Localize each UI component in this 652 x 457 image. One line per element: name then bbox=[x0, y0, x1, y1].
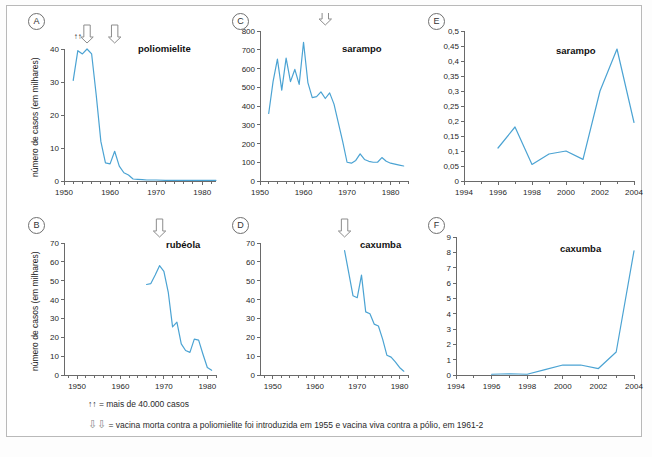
svg-text:1994: 1994 bbox=[447, 382, 465, 391]
svg-text:0,3: 0,3 bbox=[448, 87, 460, 96]
svg-text:1950: 1950 bbox=[264, 382, 282, 391]
panel-d: D0102030405060701950196019701980caxumba bbox=[224, 217, 420, 403]
svg-text:2000: 2000 bbox=[557, 188, 575, 197]
svg-text:20: 20 bbox=[50, 111, 59, 120]
footnote-symbol-up: ↑↑ bbox=[88, 399, 97, 409]
svg-text:2004: 2004 bbox=[625, 382, 643, 391]
plot-f: 0123456789199419961998200020022004 bbox=[420, 217, 648, 403]
svg-text:40: 40 bbox=[50, 296, 59, 305]
svg-text:2002: 2002 bbox=[590, 382, 608, 391]
svg-text:0,4: 0,4 bbox=[448, 57, 460, 66]
svg-text:7: 7 bbox=[447, 264, 452, 273]
panel-title-a: poliomielite bbox=[138, 43, 191, 54]
panel-c: C010020030040050060070080019501960197019… bbox=[224, 13, 420, 209]
panel-label-d: D bbox=[232, 217, 249, 234]
svg-text:1960: 1960 bbox=[306, 382, 324, 391]
svg-text:200: 200 bbox=[242, 140, 256, 149]
svg-text:0,45: 0,45 bbox=[443, 42, 459, 51]
svg-text:0,5: 0,5 bbox=[448, 27, 460, 36]
panel-b: B0102030405060701950196019701980rubéolan… bbox=[20, 217, 226, 403]
svg-text:100: 100 bbox=[242, 158, 256, 167]
svg-text:1970: 1970 bbox=[348, 382, 366, 391]
svg-text:0: 0 bbox=[455, 177, 460, 186]
svg-text:1970: 1970 bbox=[338, 188, 356, 197]
svg-text:1998: 1998 bbox=[518, 382, 536, 391]
panel-title-e: sarampo bbox=[556, 45, 596, 56]
footnote-symbol-down: ⇩⇩ bbox=[88, 418, 106, 430]
plot-a: 0102030401950196019701980↑↑ bbox=[20, 13, 226, 209]
figure-root: A0102030401950196019701980↑↑poliomielite… bbox=[0, 0, 652, 457]
svg-text:20: 20 bbox=[50, 333, 59, 342]
svg-text:6: 6 bbox=[447, 279, 452, 288]
svg-text:2004: 2004 bbox=[625, 188, 643, 197]
y-axis-title-a: número de casos (em milhares) bbox=[30, 57, 40, 177]
svg-text:1970: 1970 bbox=[155, 382, 173, 391]
svg-text:3: 3 bbox=[447, 325, 452, 334]
panel-e: E00,050,10,150,20,250,30,350,40,450,5199… bbox=[420, 13, 648, 209]
svg-text:1996: 1996 bbox=[483, 382, 501, 391]
svg-text:5: 5 bbox=[447, 294, 452, 303]
panel-label-b: B bbox=[28, 217, 45, 234]
svg-text:1980: 1980 bbox=[382, 188, 400, 197]
svg-text:1950: 1950 bbox=[251, 188, 269, 197]
svg-text:10: 10 bbox=[50, 352, 59, 361]
panel-label-f: F bbox=[428, 217, 445, 234]
svg-text:0,2: 0,2 bbox=[448, 117, 460, 126]
vaccine-arrow-icon bbox=[338, 219, 350, 237]
y-axis-title-b: número de casos (em milhares) bbox=[30, 251, 40, 371]
svg-text:600: 600 bbox=[242, 65, 256, 74]
footnote-text-up: = mais de 40.000 casos bbox=[99, 399, 189, 409]
panel-title-f: caxumba bbox=[560, 243, 601, 254]
svg-text:700: 700 bbox=[242, 46, 256, 55]
panel-label-e: E bbox=[428, 13, 445, 30]
panel-title-b: rubéola bbox=[166, 239, 200, 250]
svg-text:2: 2 bbox=[447, 340, 452, 349]
svg-text:0: 0 bbox=[55, 371, 60, 380]
svg-text:1998: 1998 bbox=[523, 188, 541, 197]
svg-text:0: 0 bbox=[55, 177, 60, 186]
vaccine-arrow-icon bbox=[153, 219, 165, 237]
svg-text:0: 0 bbox=[447, 371, 452, 380]
panel-f: F0123456789199419961998200020022004caxum… bbox=[420, 217, 648, 403]
svg-text:30: 30 bbox=[50, 314, 59, 323]
series-line-f bbox=[492, 251, 634, 374]
series-line-d bbox=[345, 251, 404, 372]
panel-title-d: caxumba bbox=[360, 239, 401, 250]
svg-text:50: 50 bbox=[246, 277, 255, 286]
svg-text:0,35: 0,35 bbox=[443, 72, 459, 81]
svg-text:400: 400 bbox=[242, 102, 256, 111]
svg-text:10: 10 bbox=[246, 352, 255, 361]
svg-text:9: 9 bbox=[447, 233, 452, 242]
svg-text:1994: 1994 bbox=[455, 188, 473, 197]
svg-text:10: 10 bbox=[50, 144, 59, 153]
svg-text:0: 0 bbox=[251, 177, 256, 186]
panel-a: A0102030401950196019701980↑↑poliomielite… bbox=[20, 13, 226, 209]
panel-label-c: C bbox=[232, 13, 249, 30]
svg-text:4: 4 bbox=[447, 310, 452, 319]
svg-text:70: 70 bbox=[50, 239, 59, 248]
svg-text:50: 50 bbox=[50, 277, 59, 286]
vaccine-arrow-icon bbox=[81, 25, 93, 43]
svg-text:2002: 2002 bbox=[591, 188, 609, 197]
svg-text:1960: 1960 bbox=[295, 188, 313, 197]
svg-text:0: 0 bbox=[251, 371, 256, 380]
svg-text:8: 8 bbox=[447, 248, 452, 257]
series-line-c bbox=[269, 42, 404, 166]
plot-c: 0100200300400500600700800195019601970198… bbox=[224, 13, 420, 209]
svg-text:40: 40 bbox=[50, 45, 59, 54]
series-line-b bbox=[147, 266, 212, 371]
svg-text:1996: 1996 bbox=[489, 188, 507, 197]
svg-text:1960: 1960 bbox=[101, 188, 119, 197]
svg-text:70: 70 bbox=[246, 239, 255, 248]
svg-text:1950: 1950 bbox=[55, 188, 73, 197]
svg-text:1980: 1980 bbox=[391, 382, 409, 391]
panel-label-a: A bbox=[28, 13, 45, 30]
svg-text:500: 500 bbox=[242, 83, 256, 92]
svg-text:0,05: 0,05 bbox=[443, 162, 459, 171]
svg-text:30: 30 bbox=[50, 78, 59, 87]
svg-text:0,1: 0,1 bbox=[448, 147, 460, 156]
svg-text:0,15: 0,15 bbox=[443, 132, 459, 141]
svg-text:1950: 1950 bbox=[68, 382, 86, 391]
footnote-text-down: = vacina morta contra a poliomielite foi… bbox=[108, 420, 483, 430]
footnote-up-arrows: ↑↑ = mais de 40.000 casos bbox=[88, 399, 189, 409]
